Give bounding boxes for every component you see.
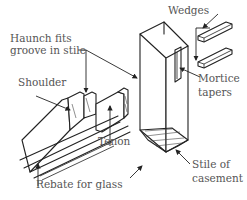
label-shoulder: Shoulder — [18, 76, 66, 88]
label-wedges: Wedges — [168, 4, 209, 16]
label-stile-line1: Stile of — [192, 158, 230, 170]
label-haunch-line1: Haunch fits — [10, 32, 72, 44]
label-stile-line2: casement — [192, 172, 243, 184]
label-rebate: Rebate for glass — [36, 178, 123, 190]
stile — [140, 22, 188, 152]
label-haunch-line2: groove in stile — [10, 44, 86, 56]
joint-diagram — [0, 0, 247, 200]
label-tenon: Tenon — [98, 135, 130, 147]
label-mortice-line1: Mortice — [198, 72, 240, 84]
wedge-upper — [198, 22, 232, 42]
label-mortice-line2: tapers — [198, 86, 232, 98]
wedge-lower — [198, 48, 232, 68]
rail — [20, 88, 130, 180]
